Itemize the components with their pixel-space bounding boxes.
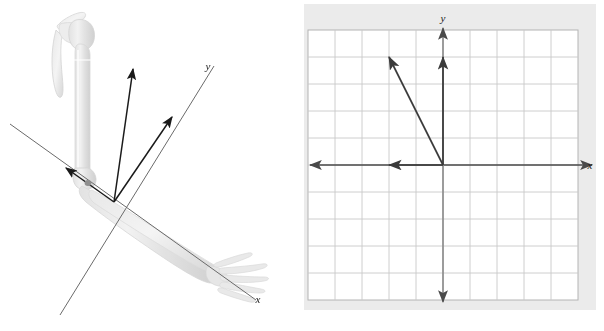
anatomy-y-axis-label: y: [205, 60, 211, 72]
cartesian-grid-vector-diagram: x y: [302, 0, 604, 331]
grid-x-axis-label: x: [587, 159, 593, 171]
anatomy-x-axis-label: x: [255, 293, 261, 305]
figure-root: y x: [0, 0, 604, 331]
anatomy-svg: y x: [0, 0, 302, 331]
arm-skeleton-vector-diagram: y x: [0, 0, 302, 331]
elbow-joint-dot: [85, 180, 92, 186]
grid-y-axis-label: y: [440, 12, 446, 24]
grid-svg: x y: [302, 0, 604, 331]
